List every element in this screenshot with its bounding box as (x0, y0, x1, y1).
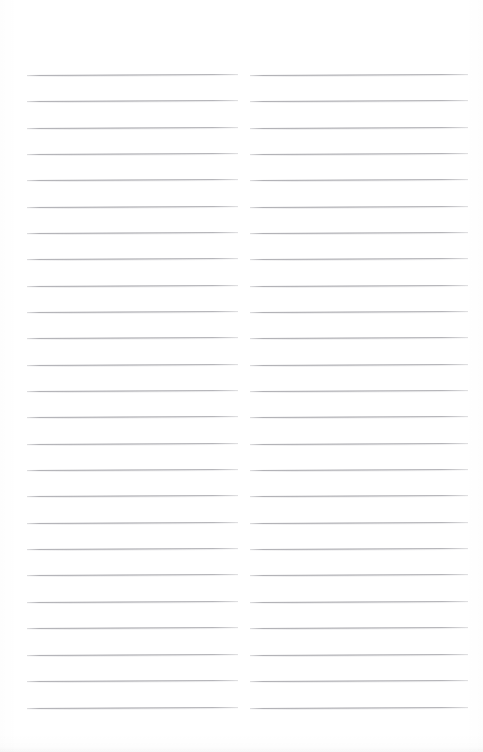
rule-line (27, 337, 238, 339)
rule-line (250, 232, 468, 234)
rule-line (27, 416, 238, 418)
rule-line (250, 574, 468, 576)
rule-line (27, 707, 238, 709)
rule-line (250, 707, 468, 709)
rule-line (250, 522, 468, 524)
rule-line (250, 443, 468, 445)
rule-line (250, 654, 468, 656)
rule-line (250, 127, 468, 129)
rule-line (250, 680, 468, 682)
rule-line (250, 416, 468, 418)
rule-line (250, 601, 468, 603)
rule-line (27, 443, 238, 445)
rule-line (27, 522, 238, 524)
rule-line (27, 127, 238, 129)
rule-line (27, 364, 238, 366)
rule-line (27, 232, 238, 234)
rule-line (27, 627, 238, 629)
scanned-page (0, 0, 483, 752)
rule-line (27, 153, 238, 155)
rule-line (250, 469, 468, 471)
rule-line (27, 206, 238, 208)
rule-line (250, 153, 468, 155)
rule-line (27, 574, 238, 576)
rule-line (27, 548, 238, 550)
rule-line (250, 100, 468, 102)
rule-line (250, 285, 468, 287)
rule-line (250, 179, 468, 181)
rule-line (27, 495, 238, 497)
rule-line (27, 469, 238, 471)
rule-line (27, 390, 238, 392)
rule-line (250, 258, 468, 260)
rule-line (250, 627, 468, 629)
rule-line (250, 74, 468, 76)
rule-line (250, 311, 468, 313)
rule-line (27, 258, 238, 260)
rule-line (27, 179, 238, 181)
rule-line (27, 74, 238, 76)
rule-line (250, 390, 468, 392)
rule-line (250, 548, 468, 550)
rule-line (27, 601, 238, 603)
rule-line (27, 285, 238, 287)
rule-line (250, 495, 468, 497)
rule-line (27, 654, 238, 656)
rule-line (250, 337, 468, 339)
rule-line (27, 311, 238, 313)
rule-line (27, 100, 238, 102)
left-column (27, 0, 238, 752)
rule-line (250, 206, 468, 208)
rule-line (250, 364, 468, 366)
rule-line (27, 680, 238, 682)
right-column (250, 0, 468, 752)
